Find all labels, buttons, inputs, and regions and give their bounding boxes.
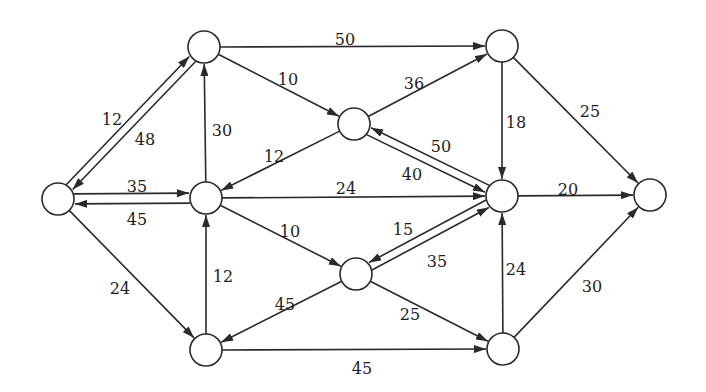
node-I <box>190 334 222 366</box>
edge-B-A <box>73 61 196 189</box>
edge-weight-label: 35 <box>127 177 147 196</box>
edge-weight-label: 50 <box>431 137 451 156</box>
node-J <box>487 333 519 365</box>
network-graph-svg: 1248354524501030361250402410182520351545… <box>0 0 706 392</box>
node-B <box>188 31 220 63</box>
edge-D-C <box>368 54 487 117</box>
node-C <box>486 30 518 62</box>
edge-weight-label: 24 <box>336 179 356 198</box>
edge-weight-label: 25 <box>580 102 600 121</box>
edge-C-G <box>513 57 638 183</box>
edge-weight-label: 10 <box>278 70 298 89</box>
node-E <box>190 182 222 214</box>
edge-weight-label: 45 <box>275 295 295 314</box>
edge-weight-label: 30 <box>212 121 232 140</box>
edge-weight-label: 35 <box>427 252 447 271</box>
edge-J-G <box>514 207 638 337</box>
edge-weight-label: 25 <box>400 305 420 324</box>
edge-J-F <box>502 213 503 333</box>
edge-weight-label: 20 <box>558 180 578 199</box>
edge-weight-label: 12 <box>213 267 233 286</box>
edge-weight-label: 18 <box>506 113 526 132</box>
edge-A-B <box>66 56 189 184</box>
edge-weight-label: 15 <box>393 220 413 239</box>
edge-weight-label: 24 <box>506 260 526 279</box>
network-diagram: 1248354524501030361250402410182520351545… <box>0 0 706 392</box>
edge-weight-label: 10 <box>280 222 300 241</box>
edge-D-F <box>367 135 485 193</box>
node-G <box>634 179 666 211</box>
node-A <box>42 183 74 215</box>
edge-I-J <box>222 349 486 350</box>
node-D <box>338 108 370 140</box>
edge-E-A <box>75 203 190 204</box>
edge-weight-label: 48 <box>135 130 155 149</box>
edge-weight-label: 30 <box>582 277 602 296</box>
node-H <box>340 258 372 290</box>
node-F <box>486 180 518 212</box>
edge-weight-label: 50 <box>335 30 355 49</box>
edge-weight-label: 12 <box>264 147 284 166</box>
edge-weight-label: 45 <box>352 359 372 378</box>
edge-layer <box>66 46 638 350</box>
edge-weight-label: 40 <box>402 165 422 184</box>
edge-weight-label: 36 <box>404 74 424 93</box>
edge-weight-label: 24 <box>110 279 130 298</box>
edge-E-B <box>204 64 206 182</box>
edge-weight-label: 12 <box>102 110 122 129</box>
edge-weight-label: 45 <box>127 210 147 229</box>
edge-H-J <box>370 281 488 341</box>
edge-A-I <box>69 210 194 337</box>
